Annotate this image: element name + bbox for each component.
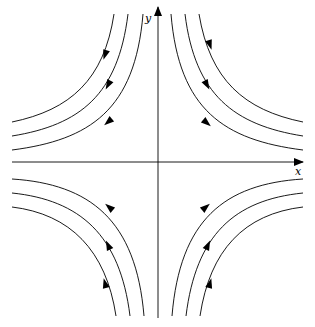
diagram-svg: x y bbox=[0, 0, 315, 327]
x-axis-label: x bbox=[295, 165, 302, 178]
direction-arrow-icon bbox=[103, 79, 114, 91]
y-axis-label: y bbox=[144, 12, 152, 25]
trajectory-ul-3 bbox=[12, 14, 143, 150]
trajectory-lr-3 bbox=[200, 207, 303, 316]
trajectory-ur-1 bbox=[199, 14, 303, 122]
direction-arrow-icon bbox=[200, 201, 212, 213]
phase-portrait-diagram: x y bbox=[0, 0, 315, 327]
direction-arrow-icon bbox=[102, 116, 114, 128]
direction-arrow-icon bbox=[100, 49, 110, 61]
direction-arrow-icon bbox=[205, 277, 214, 288]
trajectory-ur-3 bbox=[171, 14, 303, 150]
direction-arrow-icon bbox=[103, 201, 115, 213]
trajectory-lr-1 bbox=[172, 179, 303, 316]
direction-arrow-icon bbox=[202, 79, 213, 91]
trajectory-ul-1 bbox=[12, 14, 114, 122]
trajectories-group bbox=[12, 14, 303, 316]
trajectory-ll-3 bbox=[12, 207, 116, 316]
direction-arrow-icon bbox=[201, 117, 213, 129]
direction-arrow-icon bbox=[203, 239, 214, 251]
trajectory-ll-1 bbox=[12, 179, 144, 316]
